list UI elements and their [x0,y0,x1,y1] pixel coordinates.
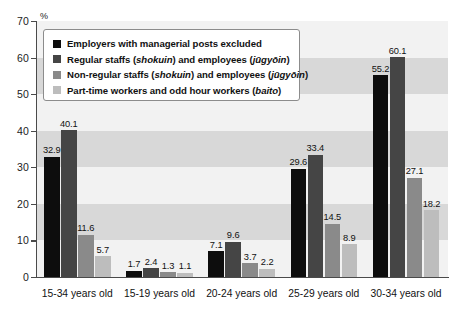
legend-label: Non-regular staffs (shokuin) and employe… [67,69,308,80]
bar [325,224,341,277]
bar [177,273,193,277]
legend-item: Regular staffs (shokuin) and employees (… [53,52,290,67]
bar-value-label: 60.1 [386,46,410,56]
y-axis-unit-label: % [40,11,48,21]
bar [126,271,142,277]
y-axis-tick-mark [31,21,37,22]
bar-chart: % 010203040506070 32.940.111.65.71.72.41… [0,0,456,316]
y-axis-tick-labels: 010203040506070 [0,0,29,316]
bar [78,235,94,277]
bar [44,157,60,277]
bar [259,269,275,277]
y-axis-tick-label: 70 [5,15,29,27]
y-axis-tick-mark [31,167,37,168]
y-axis-tick-label: 20 [5,198,29,210]
bar [95,256,111,277]
legend-swatch [53,40,61,48]
bar-value-label: 55.2 [369,64,393,74]
bar [160,272,176,277]
bar-value-label: 9.6 [221,230,245,240]
y-axis-tick-label: 30 [5,161,29,173]
legend-swatch [53,71,61,79]
bar-value-label: 1.1 [173,261,197,271]
bar [373,75,389,277]
bar-value-label: 32.9 [40,145,64,155]
legend-label: Regular staffs (shokuin) and employees (… [67,54,290,65]
bar-value-label: 5.7 [91,245,115,255]
y-axis-tick-mark [31,58,37,59]
bar-value-label: 11.6 [74,223,98,233]
bar [424,210,440,277]
y-axis-tick-label: 0 [5,271,29,283]
x-axis-line [36,277,449,278]
y-axis-tick-label: 50 [5,88,29,100]
bar-value-label: 2.2 [255,257,279,267]
bar [208,251,224,277]
bar-value-label: 29.6 [287,157,311,167]
legend-label: Part-time workers and odd hour workers (… [67,85,281,96]
x-axis-category-label: 30-34 years old [356,288,456,299]
bar-group: 55.260.127.118.2 [366,21,448,277]
y-axis-tick-mark [31,94,37,95]
bar-value-label: 27.1 [403,166,427,176]
chart-legend: Employers with managerial posts excluded… [43,29,300,101]
bar-value-label: 33.4 [304,143,328,153]
y-axis-tick-label: 60 [5,52,29,64]
y-axis-tick-mark [31,131,37,132]
y-axis-tick-mark [31,204,37,205]
bar-value-label: 8.9 [338,233,362,243]
legend-item: Non-regular staffs (shokuin) and employe… [53,67,308,82]
y-axis-tick-mark [31,277,37,278]
y-axis-tick-label: 40 [5,125,29,137]
bar [291,169,307,277]
bar-value-label: 7.1 [204,240,228,250]
bar-value-label: 40.1 [57,119,81,129]
legend-swatch [53,86,61,94]
legend-swatch [53,55,61,63]
bar-value-label: 18.2 [420,199,444,209]
legend-item: Part-time workers and odd hour workers (… [53,83,281,98]
legend-item: Employers with managerial posts excluded [53,36,262,51]
y-axis-tick-label: 10 [5,234,29,246]
bar [342,244,358,277]
y-axis-tick-mark [31,240,37,241]
legend-label: Employers with managerial posts excluded [67,38,262,49]
bar [61,130,77,277]
bar-value-label: 14.5 [321,212,345,222]
bar [407,178,423,277]
